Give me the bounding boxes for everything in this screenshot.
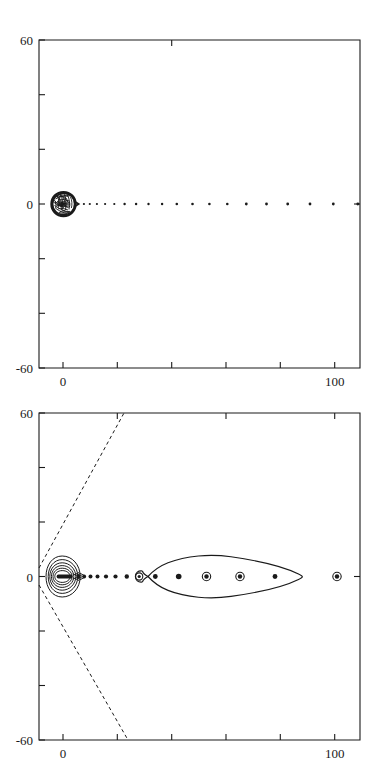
- top-plot-poles: [83, 203, 359, 206]
- bottom-plot-panel: 60 0 -60 0 100: [0, 392, 384, 783]
- bottom-plot-circled-dots: [136, 572, 342, 580]
- bottom-plot-svg: 60 0 -60 0 100: [0, 392, 384, 783]
- circled-dot: [236, 572, 244, 580]
- top-plot-x-ticks: [63, 40, 335, 368]
- top-plot-contour-cluster: [51, 192, 78, 216]
- circled-dot: [136, 573, 143, 580]
- asymptote-upper-line: [39, 413, 124, 568]
- top-plot-ylabel-min: -60: [16, 361, 33, 376]
- top-plot-y-ticks: [39, 40, 360, 368]
- top-plot-xlabel-right: 100: [325, 374, 345, 389]
- top-plot-panel: 60 0 -60 0 100: [0, 0, 384, 392]
- bottom-plot-xlabel-right: 100: [325, 746, 345, 761]
- circled-dot: [333, 572, 341, 580]
- bottom-plot-frame: [39, 413, 360, 740]
- asymptote-lower-line: [39, 585, 128, 740]
- top-plot-ylabel-max: 60: [20, 33, 33, 48]
- bottom-plot-xlabel-origin: 0: [60, 746, 67, 761]
- bottom-plot-ylabel-mid: 0: [27, 570, 34, 585]
- top-plot-ylabel-mid: 0: [27, 197, 34, 212]
- bottom-plot-plain-dots: [77, 574, 278, 580]
- bottom-plot-ylabel-min: -60: [16, 733, 33, 748]
- top-plot-frame: [39, 40, 360, 368]
- bottom-plot-y-ticks: [39, 413, 360, 740]
- bottom-plot-ylabel-max: 60: [20, 406, 33, 421]
- circled-dot: [202, 572, 210, 580]
- top-plot-xlabel-origin: 0: [60, 374, 67, 389]
- top-plot-svg: 60 0 -60 0 100: [0, 0, 384, 392]
- bottom-plot-x-ticks: [63, 413, 335, 740]
